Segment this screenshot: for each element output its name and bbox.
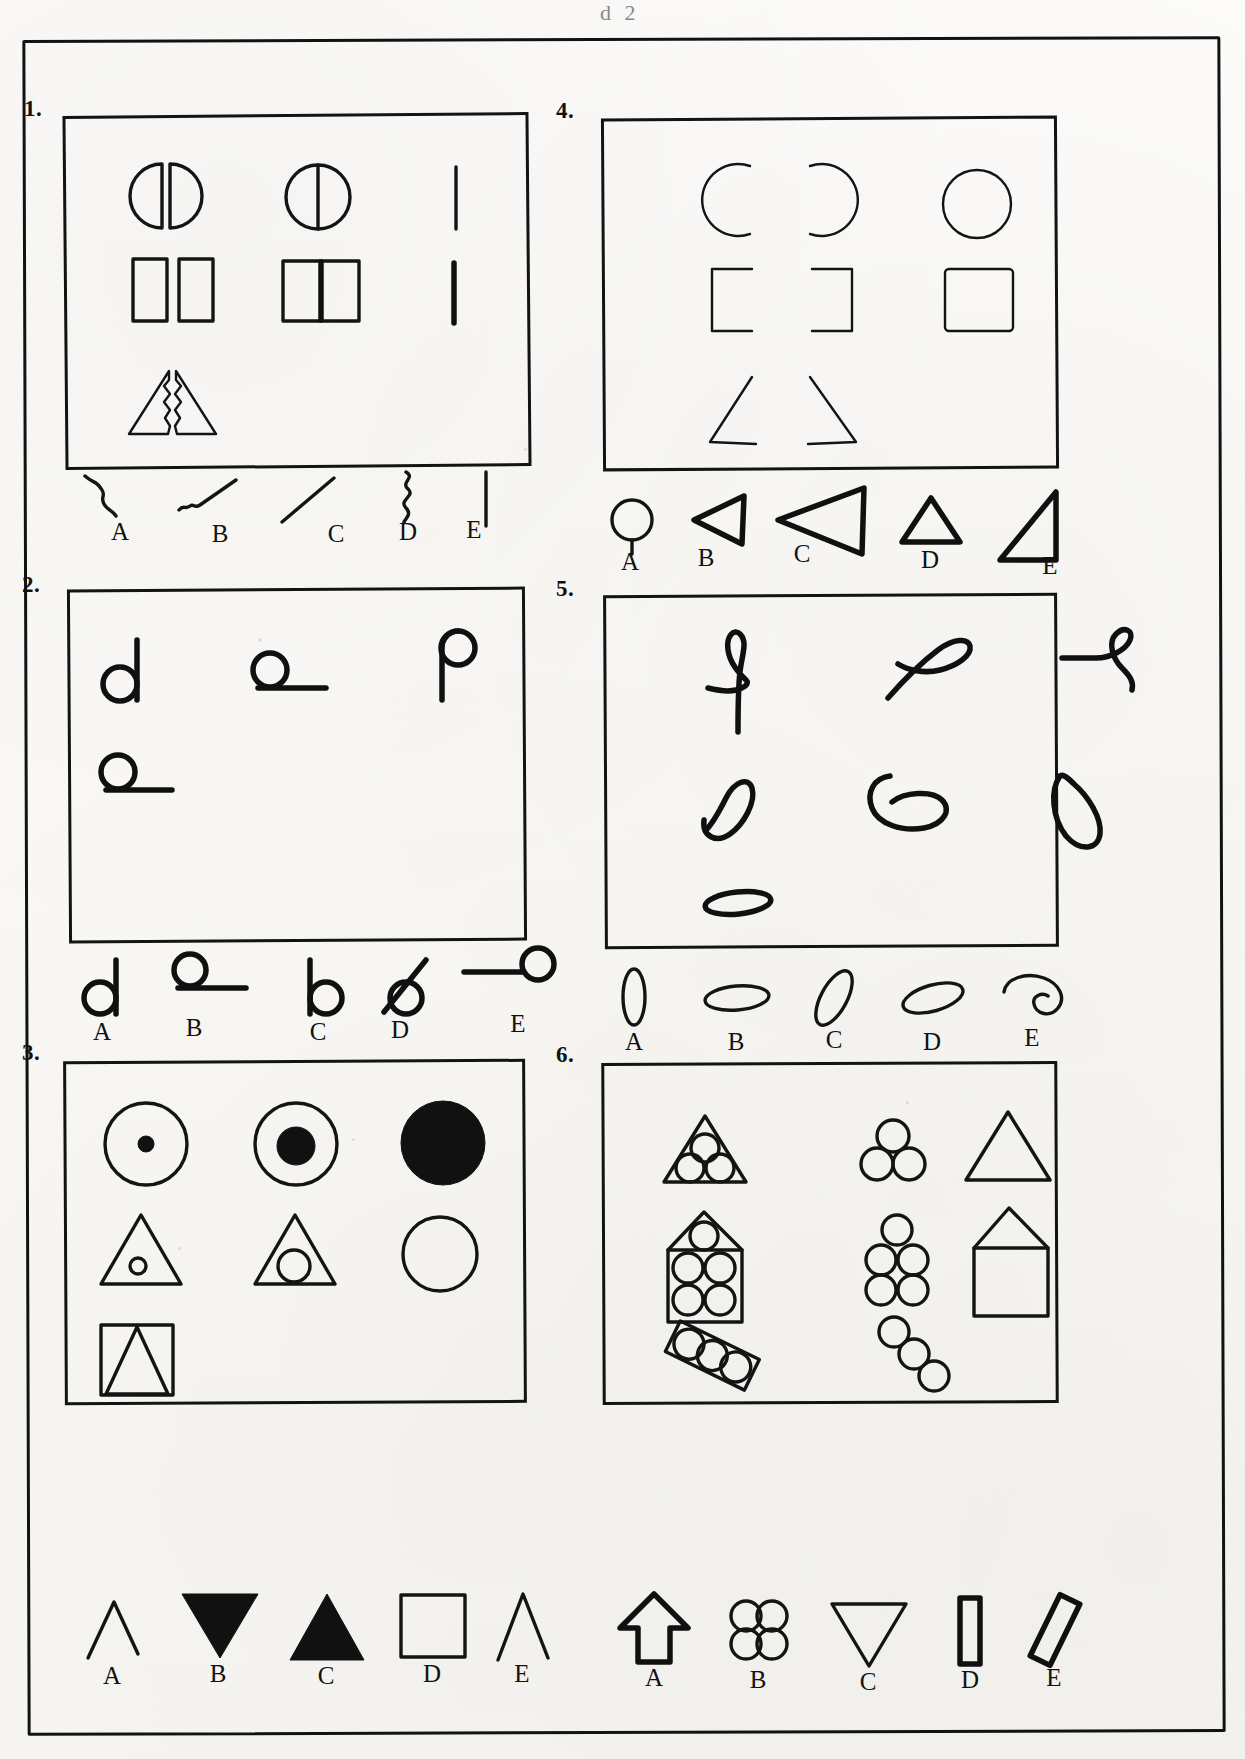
item-2-option-E[interactable]: E	[458, 948, 558, 1000]
figure-circle-vertical-diameter	[283, 163, 353, 231]
item-6-option-A[interactable]: A	[616, 1590, 692, 1668]
item-4-option-E-letter: E	[1030, 552, 1070, 580]
item-5-option-B[interactable]: B	[698, 976, 776, 1020]
figure-right-bracket	[804, 264, 860, 336]
figure-left-angle	[702, 372, 764, 450]
item-3-option-D[interactable]: D	[396, 1590, 472, 1662]
item-1-option-A[interactable]: A	[80, 470, 158, 522]
item-4-option-B-letter: B	[686, 544, 726, 572]
item-2-option-B[interactable]: B	[168, 952, 256, 1008]
item-6-option-C[interactable]: C	[826, 1598, 912, 1670]
figure-left-bracket	[704, 264, 760, 336]
figure-vertical-thin-line	[448, 165, 464, 231]
figure-triangle-with-three-circles	[660, 1112, 750, 1188]
item-1-option-C[interactable]: C	[278, 474, 350, 526]
item-4-option-B[interactable]: B	[686, 490, 752, 552]
figure-two-separated-rectangles	[130, 256, 216, 324]
figure-slanted-loop-right	[1040, 766, 1120, 858]
figure-empty-house	[962, 1204, 1056, 1322]
item-2-option-A-letter: A	[82, 1018, 122, 1046]
item-2-option-D-letter: D	[380, 1016, 420, 1044]
item-3-options: A B C D E	[60, 1588, 530, 1698]
item-2-option-C[interactable]: C	[298, 958, 350, 1020]
item-2-option-D[interactable]: D	[378, 956, 440, 1018]
item-5-option-E[interactable]: E	[996, 970, 1072, 1022]
figure-upright-loop-with-tail	[700, 624, 768, 740]
item-1-option-B[interactable]: B	[176, 476, 258, 524]
item-2-options: A B C D	[60, 948, 530, 1044]
figure-empty-triangle	[962, 1108, 1054, 1186]
item-4-option-D-letter: D	[910, 546, 950, 574]
figure-tilted-bar-with-three-circles	[654, 1310, 768, 1402]
item-4-option-A-letter: A	[610, 548, 650, 576]
item-3-option-E-letter: E	[502, 1660, 542, 1688]
item-6-option-B[interactable]: B	[720, 1596, 796, 1666]
item-4-option-C-letter: C	[782, 540, 822, 568]
item-5-options: A B C D E	[598, 962, 1070, 1062]
item-5-option-D-letter: D	[912, 1028, 952, 1056]
item-1-options: A B C D E	[60, 470, 530, 560]
item-6-option-E[interactable]: E	[1020, 1590, 1090, 1670]
item-1-number: 1.	[24, 96, 42, 122]
item-1-option-B-letter: B	[200, 520, 240, 548]
item-3-option-C-letter: C	[306, 1662, 346, 1690]
top-partial-mark: d 2	[600, 0, 660, 26]
item-6-option-D[interactable]: D	[950, 1592, 988, 1672]
figure-left-open-arc	[700, 160, 760, 240]
item-6-option-C-letter: C	[848, 1668, 888, 1696]
item-2-option-C-letter: C	[298, 1018, 338, 1046]
item-1-option-D-letter: D	[388, 518, 428, 546]
item-5-option-A[interactable]: A	[612, 966, 656, 1028]
figure-triangle-medium-circle	[250, 1210, 340, 1290]
figure-three-circles-diagonal	[872, 1310, 958, 1398]
item-2-option-E-letter: E	[498, 1010, 538, 1038]
figure-square-containing-triangle	[96, 1320, 178, 1400]
item-5-option-C-letter: C	[814, 1026, 854, 1054]
item-3-option-B[interactable]: B	[178, 1588, 264, 1662]
item-4-option-D[interactable]: D	[896, 492, 966, 550]
figure-slanted-loop-left	[696, 768, 780, 848]
figure-right-open-arc	[800, 160, 860, 240]
figure-rounded-square	[940, 264, 1018, 336]
figure-triangle-tiny-circle	[96, 1210, 186, 1290]
item-3-option-E[interactable]: E	[492, 1588, 556, 1664]
item-2-number: 2.	[22, 572, 40, 598]
item-3-option-A-letter: A	[92, 1662, 132, 1690]
figure-three-circles-cluster	[856, 1116, 930, 1186]
item-4-options: A B C D E	[596, 488, 1066, 588]
figure-empty-circle	[398, 1212, 482, 1296]
figure-crossed-loop-diagonal	[880, 620, 978, 706]
item-1-option-A-letter: A	[100, 518, 140, 546]
item-6-option-E-letter: E	[1034, 1664, 1074, 1692]
figure-circle-tiny-dot	[100, 1098, 192, 1190]
figure-horizontal-loop	[862, 766, 958, 848]
item-6-number: 6.	[556, 1042, 574, 1068]
item-3-option-A[interactable]: A	[80, 1592, 150, 1664]
figure-circle-atop-vertical-line	[432, 628, 480, 706]
item-2-option-B-letter: B	[174, 1014, 214, 1042]
figure-right-angle	[800, 372, 866, 450]
item-3-number: 3.	[22, 1040, 40, 1066]
item-6-option-A-letter: A	[634, 1664, 674, 1692]
figure-circle-on-line-right-2	[96, 752, 182, 804]
item-5-option-C[interactable]: C	[802, 964, 866, 1032]
item-2-option-A[interactable]: A	[80, 958, 132, 1020]
item-1-option-E[interactable]: E	[472, 470, 502, 528]
figure-split-triangle-halves	[126, 368, 222, 440]
figure-filled-black-circle	[396, 1096, 490, 1190]
item-1-option-D[interactable]: D	[390, 470, 430, 524]
item-3-option-C[interactable]: C	[284, 1590, 370, 1664]
figure-rectangle-with-thick-bar	[280, 258, 362, 324]
item-4-option-E[interactable]: E	[994, 488, 1070, 568]
figure-circle-medium-dot	[250, 1098, 342, 1190]
figure-vertical-thick-bar	[444, 260, 464, 326]
item-4-option-C[interactable]: C	[772, 484, 872, 560]
figure-circle-on-line-right-1	[248, 650, 334, 702]
item-4-option-A[interactable]: A	[604, 496, 662, 556]
figure-seven-circles-cluster	[860, 1212, 934, 1318]
item-1-option-C-letter: C	[316, 520, 356, 548]
figure-loop-with-horizontal-tail	[1058, 620, 1150, 706]
item-4-number: 4.	[556, 98, 574, 124]
figure-flat-thin-oval	[698, 882, 778, 924]
item-5-option-D[interactable]: D	[894, 974, 972, 1022]
